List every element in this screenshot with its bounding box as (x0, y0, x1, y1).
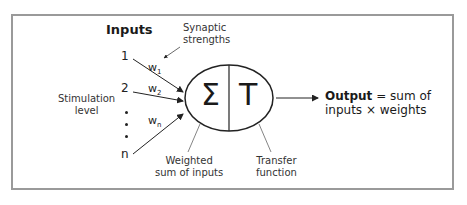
weight-base: w (148, 61, 157, 74)
ellipsis-dot (125, 135, 128, 138)
synaptic-line2: strengths (183, 34, 230, 46)
ellipsis-dot (125, 123, 128, 126)
weight-n: wn (148, 115, 161, 129)
weight-base: w (148, 114, 157, 127)
synaptic-pointer (164, 47, 180, 58)
transfer-pointer (259, 124, 271, 152)
weight-2: w2 (148, 83, 161, 97)
transfer-symbol: T (239, 78, 257, 113)
stimulation-level-label: Stimulation level (58, 93, 115, 116)
output-label: Output = sum of inputs × weights (325, 90, 431, 118)
inputs-title: Inputs (106, 23, 153, 38)
weighted-pointer (188, 124, 200, 152)
sigma-symbol: Σ (201, 78, 220, 113)
weighted-line2: sum of inputs (155, 167, 223, 179)
transfer-line2: function (256, 167, 297, 179)
stimulation-line2: level (58, 105, 115, 117)
output-bold: Output (325, 89, 372, 103)
output-line2: inputs × weights (325, 104, 431, 118)
synaptic-strengths-label: Synaptic strengths (183, 22, 230, 45)
weight-base: w (148, 82, 157, 95)
transfer-line1: Transfer (256, 155, 297, 167)
stimulation-line1: Stimulation (58, 93, 115, 105)
weighted-line1: Weighted (155, 155, 223, 167)
weight-1: w1 (148, 62, 161, 76)
weight-sub: 2 (157, 89, 161, 97)
output-rest: = sum of (372, 89, 431, 103)
weighted-sum-label: Weighted sum of inputs (155, 155, 223, 178)
weight-sub: 1 (157, 68, 161, 76)
input-number-n: n (121, 148, 129, 162)
ellipsis-dot (125, 111, 128, 114)
input-number-2: 2 (121, 82, 129, 96)
input-number-1: 1 (121, 50, 129, 64)
synaptic-line1: Synaptic (183, 22, 230, 34)
weight-sub: n (157, 121, 161, 129)
transfer-function-label: Transfer function (256, 155, 297, 178)
